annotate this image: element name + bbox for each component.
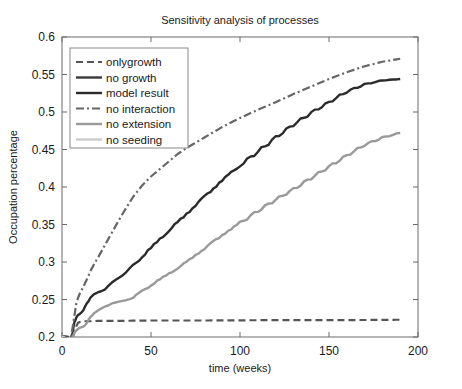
y-tick-label: 0.25 [32, 293, 56, 307]
y-tick-label: 0.45 [32, 143, 56, 157]
legend-label-model-result: model result [106, 87, 169, 99]
y-tick-label: 0.3 [38, 255, 55, 269]
legend-label-no-seeding: no seeding [106, 134, 162, 146]
x-tick-label: 100 [230, 344, 250, 358]
y-tick-label: 0.35 [32, 218, 56, 232]
x-tick-label: 150 [319, 344, 339, 358]
legend-label-no-growth: no growth [106, 72, 157, 84]
y-tick-label: 0.4 [38, 180, 55, 194]
legend-label-no-extension: no extension [106, 118, 171, 130]
x-axis-label: time (weeks) [209, 362, 271, 374]
chart-title: Sensitivity analysis of processes [161, 14, 319, 26]
x-tick-label: 200 [408, 344, 428, 358]
y-axis-label: Occupation percentage [7, 130, 19, 244]
legend-label-onlygrowth: onlygrowth [106, 56, 162, 68]
y-tick-label: 0.5 [38, 105, 55, 119]
y-tick-label: 0.2 [38, 330, 55, 344]
sensitivity-line-chart: Sensitivity analysis of processes0501001… [0, 0, 462, 389]
y-tick-label: 0.55 [32, 68, 56, 82]
y-tick-label: 0.6 [38, 30, 55, 44]
figure-canvas: Sensitivity analysis of processes0501001… [0, 0, 462, 389]
x-tick-label: 0 [59, 344, 66, 358]
legend-label-no-interaction: no interaction [106, 103, 175, 115]
x-tick-label: 50 [144, 344, 158, 358]
